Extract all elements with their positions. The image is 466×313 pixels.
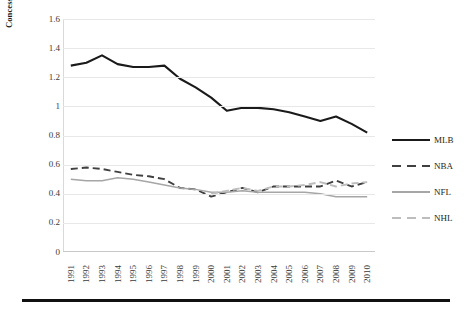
legend-item-nfl[interactable]: NFL [392, 186, 464, 198]
legend-label: NHL [434, 212, 453, 224]
figure-container: Concession prices/ticket prices 00.20.40… [0, 0, 466, 313]
y-tick-label: 0.6 [20, 160, 60, 169]
gridline [63, 136, 375, 137]
legend-swatch-nba-icon [392, 165, 430, 167]
gridline [63, 106, 375, 107]
legend-swatch-nhl-icon [392, 217, 430, 219]
y-tick-label: 1.2 [20, 73, 60, 82]
legend-label: MLB [434, 134, 454, 146]
x-tick-label: 2010 [350, 269, 384, 279]
gridline [63, 165, 375, 166]
y-axis-title: Concession prices/ticket prices [2, 0, 16, 66]
gridline [63, 19, 375, 20]
gridline [63, 77, 375, 78]
gridline [63, 223, 375, 224]
legend-label: NBA [434, 160, 453, 172]
y-tick-label: 0.2 [20, 218, 60, 227]
gridline [63, 194, 375, 195]
series-line-mlb [71, 55, 367, 132]
legend-swatch-nfl-icon [392, 191, 430, 193]
legend-item-mlb[interactable]: MLB [392, 134, 464, 146]
legend-label: NFL [434, 186, 451, 198]
x-axis-tick-labels: 1991199219931994199519961997199819992000… [63, 255, 375, 299]
y-tick-label: 1 [20, 102, 60, 111]
y-axis-tick-labels: 00.20.40.60.811.21.41.6 [18, 0, 60, 313]
bottom-divider [22, 299, 450, 302]
legend: MLBNBANFLNHL [392, 134, 464, 230]
y-tick-label: 0.8 [20, 131, 60, 140]
legend-swatch-mlb-icon [392, 139, 430, 141]
y-tick-label: 0 [20, 248, 60, 257]
y-tick-label: 1.6 [20, 15, 60, 24]
legend-item-nhl[interactable]: NHL [392, 212, 464, 224]
gridline [63, 48, 375, 49]
legend-item-nba[interactable]: NBA [392, 160, 464, 172]
y-tick-label: 0.4 [20, 189, 60, 198]
y-tick-label: 1.4 [20, 44, 60, 53]
plot-area [63, 19, 375, 252]
